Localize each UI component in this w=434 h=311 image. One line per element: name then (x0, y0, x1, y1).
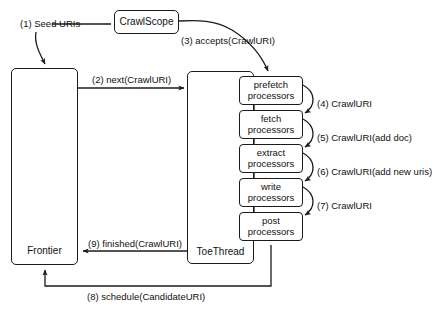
edge-label-2: (2) next(CrawlURI) (92, 74, 171, 85)
edge-5-curve (303, 119, 313, 147)
diagram-canvas: CrawlScope Frontier ToeThread prefetchpr… (0, 0, 434, 311)
post-line1: post (262, 215, 280, 226)
edge-label-4: (4) CrawlURI (317, 98, 372, 109)
fetch-label: fetchprocessors (248, 114, 294, 135)
edge-label-6: (6) CrawlURI(add new uris) (317, 166, 432, 177)
extract-line1: extract (257, 147, 286, 158)
node-prefetch-processors[interactable]: prefetchprocessors (239, 76, 303, 105)
crawlscope-label: CrawlScope (120, 16, 174, 27)
edge-label-7: (7) CrawlURI (317, 200, 372, 211)
edge-6-curve (303, 153, 313, 181)
node-crawlscope[interactable]: CrawlScope (114, 10, 179, 34)
post-line2: processors (248, 226, 294, 237)
node-fetch-processors[interactable]: fetchprocessors (239, 110, 303, 139)
write-label: writeprocessors (248, 182, 294, 203)
edge-label-5: (5) CrawlURI(add doc) (317, 132, 412, 143)
fetch-line2: processors (248, 124, 294, 135)
node-frontier[interactable]: Frontier (11, 68, 78, 265)
edge-label-9: (9) finished(CrawlURI) (88, 238, 182, 249)
prefetch-label: prefetchprocessors (248, 80, 294, 101)
edge-seed-uris (36, 32, 45, 64)
write-line1: write (261, 181, 281, 192)
edge-7-curve (303, 187, 313, 215)
prefetch-line2: processors (248, 90, 294, 101)
edge-label-8: (8) schedule(CandidateURI) (87, 291, 205, 302)
edge-label-3: (3) accepts(CrawlURI) (181, 35, 275, 46)
toethread-label: ToeThread (197, 246, 245, 257)
extract-line2: processors (248, 158, 294, 169)
node-extract-processors[interactable]: extractprocessors (239, 144, 303, 173)
fetch-line1: fetch (261, 113, 282, 124)
edge-4-curve (303, 85, 313, 113)
frontier-label: Frontier (27, 245, 61, 256)
write-line2: processors (248, 192, 294, 203)
extract-label: extractprocessors (248, 148, 294, 169)
edge-accepts-up (179, 21, 232, 30)
node-post-processors[interactable]: postprocessors (239, 212, 303, 241)
node-write-processors[interactable]: writeprocessors (239, 178, 303, 207)
post-label: postprocessors (248, 216, 294, 237)
prefetch-line1: prefetch (254, 79, 288, 90)
edge-label-1: (1) Seed URIs (20, 18, 80, 29)
